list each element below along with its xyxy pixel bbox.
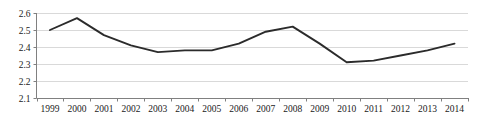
x-axis-tick-label: 2007 — [256, 104, 275, 114]
x-axis-tick-label: 2011 — [364, 104, 383, 114]
chart-background — [0, 0, 485, 120]
x-axis-tick-label: 2002 — [121, 104, 140, 114]
x-axis-tick-label: 2005 — [202, 104, 221, 114]
chart-canvas: 2.12.22.32.42.52.6 199920002001200220032… — [0, 0, 485, 120]
y-axis-tick-label: 2.5 — [19, 26, 31, 36]
y-axis-tick-label: 2.6 — [19, 9, 31, 19]
y-axis-tick-label: 2.2 — [19, 77, 31, 87]
x-axis-tick-label: 2004 — [175, 104, 194, 114]
x-axis-tick-label: 2013 — [418, 104, 437, 114]
x-axis-tick-label: 2014 — [445, 104, 464, 114]
x-axis-tick-label: 2010 — [337, 104, 356, 114]
x-axis-tick-label: 1999 — [40, 104, 59, 114]
x-axis-tick-label: 2008 — [283, 104, 302, 114]
x-axis-tick-label: 2012 — [391, 104, 410, 114]
x-axis-tick-label: 2006 — [229, 104, 248, 114]
x-axis-tick-label: 2003 — [148, 104, 167, 114]
line-chart: 2.12.22.32.42.52.6 199920002001200220032… — [0, 0, 485, 120]
x-axis-tick-label: 2000 — [67, 104, 86, 114]
y-axis-tick-label: 2.1 — [19, 94, 31, 104]
x-axis-tick-label: 2009 — [310, 104, 329, 114]
x-axis-tick-label: 2001 — [94, 104, 113, 114]
y-axis-tick-label: 2.4 — [19, 43, 31, 53]
y-axis-tick-label: 2.3 — [19, 60, 31, 70]
